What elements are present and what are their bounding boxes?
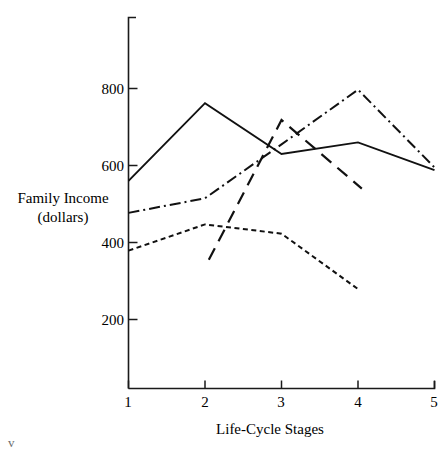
line-chart-figure: 800 600 400 200 1 2 3 4 5 Family Income … xyxy=(0,0,438,450)
y-axis-title-line1: Family Income xyxy=(17,190,109,206)
y-tick-marks xyxy=(129,89,138,320)
x-axis-title: Life-Cycle Stages xyxy=(216,421,324,437)
series-line-short-dash xyxy=(129,224,359,289)
x-tick-label-3: 3 xyxy=(277,394,285,410)
series-line-solid xyxy=(129,103,435,181)
corner-text-fragment: v xyxy=(8,435,15,450)
y-tick-label-800: 800 xyxy=(102,81,125,97)
x-tick-label-1: 1 xyxy=(124,394,132,410)
y-axis-title-line2: (dollars) xyxy=(38,209,89,226)
series-line-dash-dot xyxy=(129,90,435,213)
x-tick-marks xyxy=(129,381,435,389)
y-axis-line xyxy=(129,18,137,389)
series-group xyxy=(129,90,435,289)
x-tick-label-5: 5 xyxy=(430,394,438,410)
x-tick-label-4: 4 xyxy=(354,394,362,410)
y-tick-label-200: 200 xyxy=(102,312,125,328)
x-tick-label-2: 2 xyxy=(201,394,209,410)
y-tick-label-400: 400 xyxy=(102,235,125,251)
y-tick-label-600: 600 xyxy=(102,158,125,174)
